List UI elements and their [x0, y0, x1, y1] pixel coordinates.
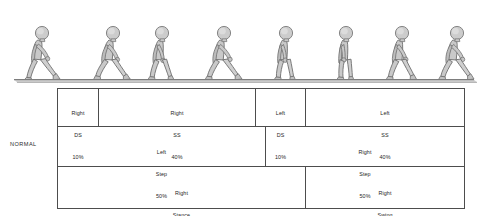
gait-cycle-diagram: NORMAL Right DS 10% Right SS 40% Left DS… [0, 0, 486, 216]
stance-swing-row-outline [58, 167, 465, 209]
phase-row-outline [58, 89, 465, 127]
step-row-outline [58, 127, 465, 167]
gait-phase-table [0, 0, 486, 216]
row-label-normal: NORMAL [10, 141, 37, 147]
